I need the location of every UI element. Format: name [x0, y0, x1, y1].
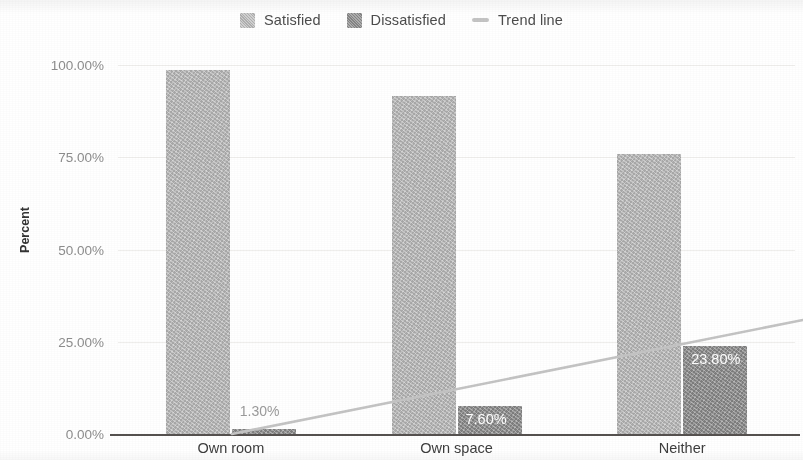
y-axis-tick-label: 100.00% [51, 58, 104, 73]
data-label-dissatisfied: 23.80% [691, 351, 740, 367]
bar-satisfied[interactable] [392, 96, 456, 434]
legend-label-satisfied: Satisfied [264, 12, 321, 28]
satisfied-swatch-icon [240, 13, 255, 28]
gridline [118, 65, 795, 66]
dissatisfied-swatch-icon [347, 13, 362, 28]
x-axis-line [110, 434, 800, 436]
x-axis-category-label: Own space [420, 440, 493, 456]
x-axis-category-label: Own room [197, 440, 264, 456]
legend-item-trend-line[interactable]: Trend line [472, 12, 563, 28]
legend-label-trend-line: Trend line [498, 12, 563, 28]
data-label-dissatisfied: 7.60% [466, 411, 507, 427]
data-label-dissatisfied: 1.30% [240, 403, 280, 419]
y-axis-tick-label: 0.00% [66, 427, 104, 442]
x-axis-category-labels: Own roomOwn spaceNeither [118, 440, 795, 460]
legend-label-dissatisfied: Dissatisfied [371, 12, 446, 28]
y-axis-tick-labels: 0.00%25.00%50.00%75.00%100.00% [0, 0, 112, 460]
trend-line-swatch-icon [472, 18, 489, 22]
chart-title-cropped [0, 0, 803, 5]
y-axis-tick-label: 75.00% [58, 150, 104, 165]
legend-item-satisfied[interactable]: Satisfied [240, 12, 321, 28]
plot-area: 1.30%7.60%23.80% [118, 65, 795, 434]
chart-legend: Satisfied Dissatisfied Trend line [0, 12, 803, 28]
y-axis-tick-label: 50.00% [58, 242, 104, 257]
legend-item-dissatisfied[interactable]: Dissatisfied [347, 12, 446, 28]
bar-satisfied[interactable] [617, 154, 681, 434]
bar-satisfied[interactable] [166, 70, 230, 434]
y-axis-tick-label: 25.00% [58, 334, 104, 349]
bar-chart: Satisfied Dissatisfied Trend line Percen… [0, 0, 803, 460]
x-axis-category-label: Neither [659, 440, 706, 456]
